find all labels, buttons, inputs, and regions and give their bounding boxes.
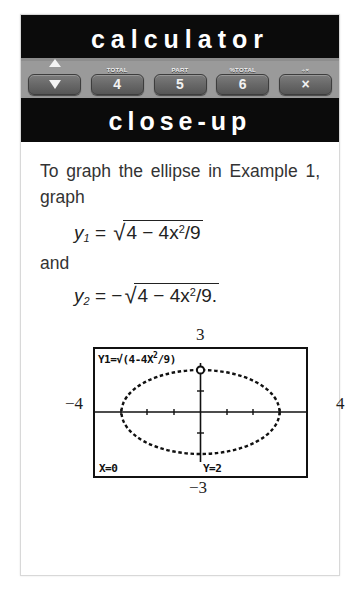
total-key-cap: 4 (91, 74, 144, 95)
banner-calculator: calculator (21, 15, 339, 58)
total-key[interactable]: TOTAL 4 (91, 68, 144, 95)
equation-y1-lhs: y (74, 222, 84, 243)
calculator-screen: Y1=√(4-4X2/9) X=0 Y=2 (93, 347, 308, 478)
screen-equation-suffix: /9) (157, 352, 175, 365)
conjunction-and: and (40, 253, 320, 274)
equation-y1-equals: = (95, 222, 106, 243)
total-key-label: TOTAL (91, 67, 144, 73)
trace-cursor-icon (197, 366, 204, 373)
screen-equation-readout: Y1=√(4-4X2/9) (98, 351, 176, 366)
arrow-key-cap (28, 74, 81, 95)
percent-total-key[interactable]: %TOTAL 6 (216, 68, 269, 95)
equation-y2-equals: = (95, 285, 106, 306)
axis-label-bottom: −3 (189, 478, 207, 498)
multiply-key-label: ÷× (279, 67, 332, 73)
equation-y2-radicand: 4 − 4x2/9. (134, 283, 219, 307)
equation-y1-subscript: 1 (84, 232, 90, 244)
equation-y1-radicand: 4 − 4x2/9 (123, 220, 202, 244)
equation-y2-subscript: 2 (84, 295, 90, 307)
axis-label-right: 4 (336, 394, 345, 414)
part-key-label: PART (154, 67, 207, 73)
part-key-cap: 5 (154, 74, 207, 95)
arrow-key[interactable] (28, 68, 81, 95)
axis-label-top: 3 (196, 325, 205, 345)
equation-y1: y1 = √4 − 4x2/9 (74, 220, 320, 246)
equation-y2: y2 = − √4 − 4x2/9. (74, 283, 320, 309)
graph-plot (95, 349, 306, 476)
calculator-key-strip: TOTAL 4 PART 5 %TOTAL 6 ÷× × (21, 58, 339, 98)
part-key[interactable]: PART 5 (154, 68, 207, 95)
equation-y1-radicand-a: 4 − 4x (126, 222, 178, 243)
screen-x-readout: X=0 (99, 462, 117, 475)
equation-y1-radical: √4 − 4x2/9 (111, 220, 202, 246)
calculator-closeup-card: calculator TOTAL 4 PART 5 %TOTAL 6 ÷× × … (20, 14, 340, 576)
intro-paragraph: To graph the ellipse in Example 1, graph (40, 158, 320, 211)
prose-block: To graph the ellipse in Example 1, graph… (21, 142, 339, 511)
equation-y2-negative-sign: − (111, 285, 122, 306)
equation-y1-radicand-b: /9 (185, 222, 201, 243)
percent-total-key-label: %TOTAL (216, 67, 269, 73)
arrow-up-icon (49, 59, 61, 67)
screen-y-readout: Y=2 (203, 462, 221, 475)
equation-y2-radicand-b: /9. (196, 285, 217, 306)
arrow-down-icon (49, 80, 61, 89)
axis-label-left: −4 (65, 394, 83, 414)
screen-equation-prefix: Y1=√(4-4X (98, 352, 153, 365)
banner-close-up: close-up (21, 98, 339, 142)
equation-y2-lhs: y (74, 285, 84, 306)
graph-figure: 3 −3 −4 4 (40, 321, 355, 511)
percent-total-key-cap: 6 (216, 74, 269, 95)
equation-y2-radical: √4 − 4x2/9. (122, 283, 219, 309)
multiply-key-cap: × (279, 74, 332, 95)
equation-y2-radicand-a: 4 − 4x (137, 285, 189, 306)
multiply-key[interactable]: ÷× × (279, 68, 332, 95)
